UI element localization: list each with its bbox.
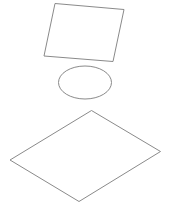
diagram-canvas (0, 0, 172, 212)
ellipse-shape (59, 66, 112, 99)
diamond-shape (10, 111, 161, 202)
diagram-svg (0, 0, 172, 212)
tilted-rectangle-shape (44, 4, 124, 62)
